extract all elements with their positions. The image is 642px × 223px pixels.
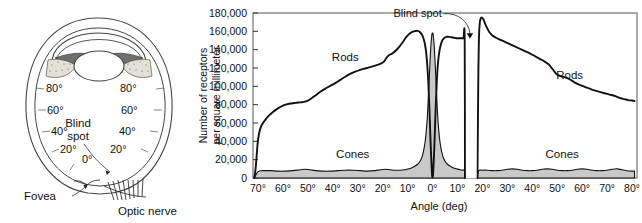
x-tick-label: 50° xyxy=(300,182,316,194)
blind-spot-label-line2: spot xyxy=(67,130,90,142)
blind-spot-label-line1: Blind xyxy=(65,117,91,129)
series-label-cones-3: Cones xyxy=(336,148,369,160)
angle-label-center-0: 0° xyxy=(82,153,93,165)
angle-label-left-80: 80° xyxy=(46,82,63,94)
x-tick-label: 40° xyxy=(325,182,341,194)
x-tick-label: 10° xyxy=(450,182,466,194)
x-tick-label: 60° xyxy=(275,182,291,194)
x-tick-label: 30° xyxy=(350,182,366,194)
x-tick-label: 60° xyxy=(574,182,590,194)
blind-spot-annotation-label: Blind spot xyxy=(393,7,441,19)
lens xyxy=(74,51,124,81)
eye-cross-section-diagram: 80° 60° 40° 20° 80° 60° 40° 20° 0° Blind… xyxy=(0,0,196,223)
eye-diagram-panel: 80° 60° 40° 20° 80° 60° 40° 20° 0° Blind… xyxy=(0,0,196,223)
optic-nerve-label: Optic nerve xyxy=(118,205,177,217)
angle-label-left-60: 60° xyxy=(47,104,64,116)
x-tick-label: 80° xyxy=(624,182,640,194)
x-tick-label: 30° xyxy=(499,182,515,194)
x-tick-label: 40° xyxy=(524,182,540,194)
x-tick-label: 10° xyxy=(400,182,416,194)
series-label-rods-1: Rods xyxy=(332,51,359,63)
series-label-cones-4: Cones xyxy=(546,148,579,160)
series-cones-right-curve xyxy=(477,169,634,178)
blind-spot-gap-band xyxy=(466,14,476,178)
x-tick-label: 70° xyxy=(599,182,615,194)
angle-label-right-40: 40° xyxy=(119,125,136,137)
angle-label-right-20: 20° xyxy=(110,143,127,155)
y-tick-label: 180,000 xyxy=(209,7,247,19)
receptor-density-chart: 020,00040,00060,00080,000100,000120,0001… xyxy=(196,0,642,223)
x-tick-label: 0° xyxy=(428,182,438,194)
x-tick-label: 50° xyxy=(549,182,565,194)
x-tick-label: 20° xyxy=(474,182,490,194)
receptor-density-chart-panel: 020,00040,00060,00080,000100,000120,0001… xyxy=(196,0,642,223)
fovea-label: Fovea xyxy=(24,190,57,202)
x-tick-label: 70° xyxy=(250,182,266,194)
y-axis-title-line2: per square millimeter xyxy=(210,46,222,145)
y-tick-label: 20,000 xyxy=(215,153,247,165)
y-tick-label: 160,000 xyxy=(209,25,247,37)
angle-label-left-20: 20° xyxy=(60,143,77,155)
series-label-rods-2: Rods xyxy=(556,69,583,81)
y-axis-title-line1: Number of receptors xyxy=(197,48,209,144)
x-axis-title: Angle (deg) xyxy=(411,200,468,212)
y-tick-label: 0 xyxy=(241,172,247,184)
x-tick-label: 20° xyxy=(375,182,391,194)
angle-label-right-60: 60° xyxy=(121,104,138,116)
figure-root: 80° 60° 40° 20° 80° 60° 40° 20° 0° Blind… xyxy=(0,0,642,223)
angle-label-right-80: 80° xyxy=(120,82,137,94)
